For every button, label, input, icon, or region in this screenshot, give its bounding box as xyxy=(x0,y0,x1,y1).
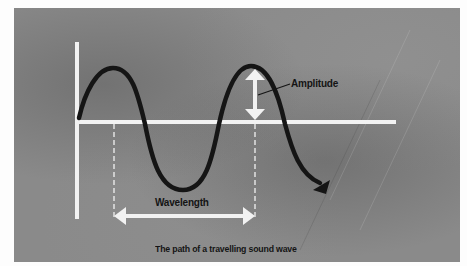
diagram-caption: The path of a travelling sound wave xyxy=(155,243,297,254)
sound-wave-curve xyxy=(79,66,320,190)
amplitude-label: Amplitude xyxy=(291,78,338,89)
amplitude-arrow xyxy=(245,69,265,120)
wavelength-arrow xyxy=(114,207,255,225)
page: Amplitude Wavelength The path of a trave… xyxy=(0,0,467,266)
horizontal-axis xyxy=(77,120,396,124)
wavelength-label: Wavelength xyxy=(155,197,209,208)
background-texture xyxy=(300,30,440,250)
vertical-axis xyxy=(75,42,79,219)
sound-wave-diagram xyxy=(0,0,467,266)
